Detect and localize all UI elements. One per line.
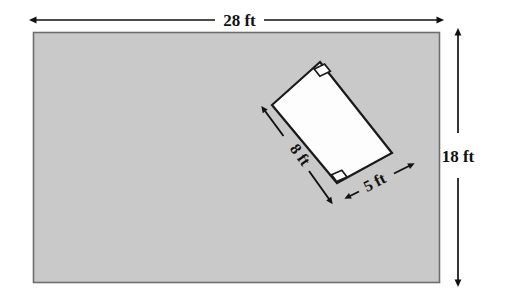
width-dimension-label: 28 ft [223, 11, 256, 30]
diagram-canvas: 28 ft 18 ft 8 ft 5 ft [0, 0, 505, 291]
height-dimension-label: 18 ft [442, 147, 475, 166]
geometry-figure: 28 ft 18 ft 8 ft 5 ft [0, 0, 505, 291]
height-dimension-line: 18 ft [442, 35, 475, 280]
width-dimension-line: 28 ft [36, 11, 437, 30]
